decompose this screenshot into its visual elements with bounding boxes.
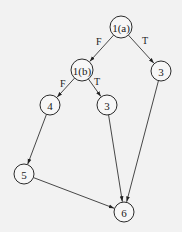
edge-n3m-to-n6 bbox=[109, 115, 123, 202]
edge-label: T bbox=[142, 35, 148, 46]
node-label: 5 bbox=[21, 169, 27, 181]
node-label: 4 bbox=[47, 100, 53, 112]
node-label: 1(a) bbox=[112, 22, 130, 35]
edge-n1b-to-n4: F bbox=[57, 78, 74, 97]
edge-arrow bbox=[90, 35, 114, 61]
flow-graph-canvas: FTFT 1(a)1(b)34356 bbox=[0, 0, 182, 232]
node-label: 6 bbox=[121, 207, 127, 219]
edge-arrow bbox=[33, 178, 114, 209]
node-n1b: 1(b) bbox=[71, 59, 93, 81]
edge-arrow bbox=[109, 115, 123, 202]
node-n3m: 3 bbox=[97, 95, 117, 115]
edge-label: F bbox=[60, 78, 66, 89]
edge-label: T bbox=[94, 76, 100, 87]
edge-n1a-to-n3r: T bbox=[128, 35, 154, 63]
edge-n1a-to-n1b: F bbox=[90, 35, 114, 61]
edge-arrow bbox=[127, 81, 159, 202]
node-n1a: 1(a) bbox=[110, 16, 132, 38]
edge-arrow bbox=[28, 114, 47, 164]
edge-label: F bbox=[96, 36, 102, 47]
edge-n4-to-n5 bbox=[28, 114, 47, 164]
node-label: 3 bbox=[104, 100, 110, 112]
node-n6: 6 bbox=[114, 202, 134, 222]
edge-n5-to-n6 bbox=[33, 178, 114, 209]
edge-n3r-to-n6 bbox=[127, 81, 159, 202]
node-label: 1(b) bbox=[73, 65, 92, 78]
node-n4: 4 bbox=[40, 95, 60, 115]
node-label: 3 bbox=[158, 66, 164, 78]
edge-n1b-to-n3m: T bbox=[88, 76, 101, 96]
flow-graph: FTFT 1(a)1(b)34356 bbox=[0, 0, 182, 232]
node-n5: 5 bbox=[14, 164, 34, 184]
node-n3r: 3 bbox=[151, 61, 171, 81]
